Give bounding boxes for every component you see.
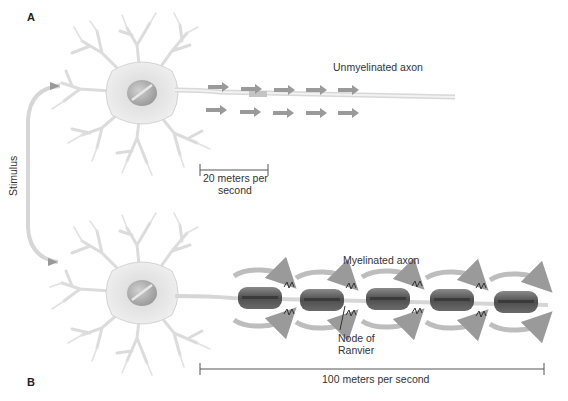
neuron-diagram xyxy=(0,0,568,401)
panel-a-label: A xyxy=(27,11,35,23)
unmyelinated-axon-label: Unmyelinated axon xyxy=(333,61,423,73)
neuron-b xyxy=(50,213,210,375)
impulse-arrows xyxy=(206,82,359,118)
speed-label-a-line1: 20 meters per xyxy=(203,172,268,184)
stimulus-path xyxy=(28,86,60,262)
neuron-a xyxy=(50,13,210,175)
myelinated-axon xyxy=(175,296,548,305)
panel-b-label: B xyxy=(27,376,35,388)
depolarization-zone xyxy=(249,91,267,97)
myelinated-axon-label: Myelinated axon xyxy=(343,254,419,266)
myelin-sheaths xyxy=(234,270,542,330)
stimulus-arrowhead-a xyxy=(50,82,60,90)
stimulus-label: Stimulus xyxy=(7,156,19,196)
node-of-ranvier-label-line2: Ranvier xyxy=(338,344,374,356)
node-of-ranvier-label-line1: Node of xyxy=(338,332,375,344)
speed-label-a-line2: second xyxy=(218,184,252,196)
speed-label-b: 100 meters per second xyxy=(322,373,429,385)
